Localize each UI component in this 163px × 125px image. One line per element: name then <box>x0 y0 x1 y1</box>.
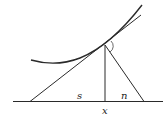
right-angle-arc-icon <box>110 41 113 52</box>
tangent-line <box>30 15 141 102</box>
label-abscissa: x <box>102 106 108 116</box>
label-subtangent: s <box>77 91 82 101</box>
tangent-normal-diagram: s n x <box>0 0 163 125</box>
curve <box>31 5 142 63</box>
diagram-canvas <box>0 0 163 125</box>
label-subnormal: n <box>121 91 127 101</box>
